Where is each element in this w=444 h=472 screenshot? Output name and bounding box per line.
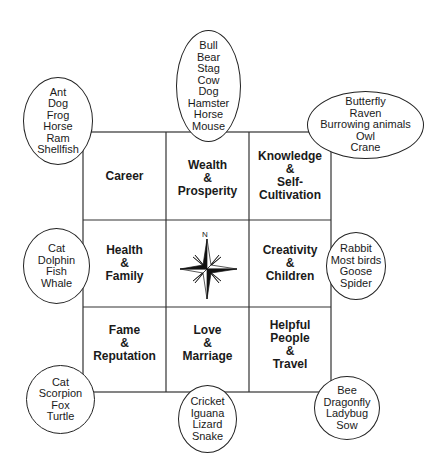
animal-item: Bee (323, 385, 370, 397)
animal-item: Mouse (188, 121, 230, 133)
animal-item: Rabbit (331, 243, 382, 255)
animal-item: Goose (331, 266, 382, 278)
animal-item: Lizard (190, 419, 224, 431)
animal-item: Crane (320, 142, 410, 154)
animal-item: Shellfish (37, 144, 79, 156)
cell-health-family: Health & Family (83, 220, 166, 307)
animals-top-left: Ant Dog Frog Horse Ram Shellfish (23, 77, 93, 165)
animal-item: Bull (188, 40, 230, 52)
cell-love-marriage: Love & Marriage (166, 307, 249, 392)
animal-item: Whale (38, 278, 75, 290)
animal-item: Snake (190, 431, 224, 443)
animal-item: Scorpion (39, 388, 82, 400)
animals-bottom-left: Cat Scorpion Fox Turtle (26, 365, 95, 434)
animal-item: Fish (38, 266, 75, 278)
animal-item: Dog (37, 98, 79, 110)
animals-bottom-right: Bee Dragonfly Ladybug Sow (314, 376, 380, 440)
animal-item: Stag (188, 63, 230, 75)
cell-creativity-children: Creativity & Children (249, 220, 331, 307)
animal-item: Horse (37, 121, 79, 133)
animal-item: Spider (331, 278, 382, 290)
animal-item: Cricket (190, 396, 224, 408)
cell-helpful-people-travel: Helpful People & Travel (249, 307, 331, 392)
animals-bottom: Cricket Iguana Lizard Snake (178, 385, 237, 453)
animal-item: Cat (38, 243, 75, 255)
cell-wealth-prosperity: Wealth & Prosperity (166, 132, 249, 220)
animal-item: Dog (188, 86, 230, 98)
animal-item: Ladybug (323, 408, 370, 420)
animals-right: Rabbit Most birds Goose Spider (326, 232, 386, 300)
compass-north-label: N (202, 230, 208, 239)
animal-item: Sow (323, 420, 370, 432)
cell-fame-reputation: Fame & Reputation (83, 307, 166, 392)
animals-left: Cat Dolphin Fish Whale (23, 228, 90, 304)
animal-item: Turtle (39, 411, 82, 423)
animals-top-right: Butterfly Raven Burrowing animals Owl Cr… (307, 91, 424, 159)
animal-item: Horse (188, 109, 230, 121)
animals-top: Bull Bear Stag Cow Dog Hamster Horse Mou… (176, 30, 241, 142)
cell-career: Career (83, 132, 166, 220)
